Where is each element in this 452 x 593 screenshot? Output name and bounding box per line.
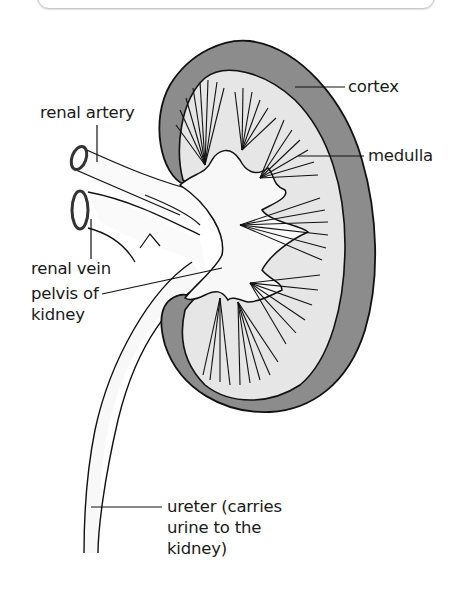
label-renal-vein: renal vein <box>31 258 111 279</box>
label-medulla: medulla <box>368 145 433 166</box>
label-cortex: cortex <box>348 76 399 97</box>
label-pelvis-of-kidney: pelvis of kidney <box>31 283 99 325</box>
label-renal-artery: renal artery <box>40 102 135 123</box>
label-ureter: ureter (carries urine to the kidney) <box>167 496 282 559</box>
